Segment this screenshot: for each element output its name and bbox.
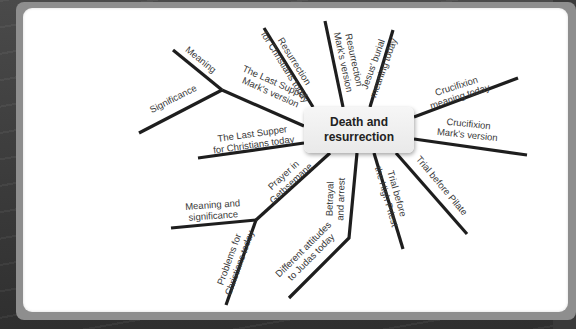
central-topic-node: Death and resurrection — [304, 107, 414, 153]
branch-line-crucifixion-marks — [414, 139, 527, 155]
central-topic-line: Death and — [324, 115, 394, 130]
central-topic-line: resurrection — [324, 130, 394, 145]
